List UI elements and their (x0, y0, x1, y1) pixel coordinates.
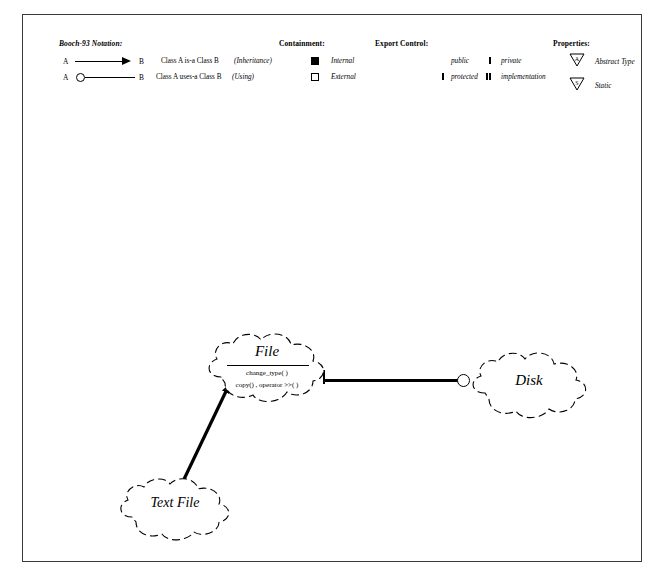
diagram-page: Booch-93 Notation: A B Class A is-a Clas… (0, 0, 664, 582)
class-cloud-text-file[interactable]: Text File (107, 473, 243, 545)
class-cloud-disk[interactable]: Disk (459, 347, 599, 423)
diagram-sheet: Booch-93 Notation: A B Class A is-a Clas… (22, 14, 642, 562)
class-name-disk: Disk (459, 372, 599, 389)
class-file-operation-1: copy() , operator >>( ) (197, 381, 337, 389)
class-name-file: File (197, 343, 337, 360)
class-file-title-rule (227, 365, 309, 366)
class-name-text-file: Text File (107, 495, 243, 511)
class-cloud-file[interactable]: File change_type( ) copy() , operator >>… (197, 327, 337, 411)
class-file-operation-0: change_type( ) (197, 369, 337, 377)
